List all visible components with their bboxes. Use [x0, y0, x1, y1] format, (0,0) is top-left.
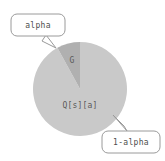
pie-slice-q-s-a-label: Q[s][a] [62, 101, 97, 110]
diagram-canvas: G Q[s][a] alpha 1-alpha [0, 0, 165, 161]
one-minus-alpha-callout-tail-icon [113, 115, 127, 131]
alpha-callout[interactable]: alpha [11, 14, 65, 48]
alpha-callout-tail-icon [42, 35, 56, 48]
pie-slice-g-label: G [69, 56, 74, 65]
one-minus-alpha-callout-label: 1-alpha [113, 138, 149, 147]
alpha-callout-label: alpha [25, 21, 51, 30]
pie-callout-figure: G Q[s][a] alpha 1-alpha [0, 0, 165, 161]
